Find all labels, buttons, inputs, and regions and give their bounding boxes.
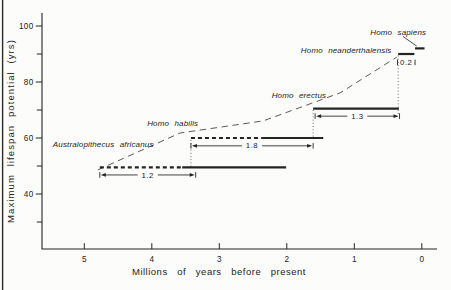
arrowhead-right bbox=[394, 114, 399, 118]
duration-label: 1.3 bbox=[351, 112, 363, 121]
lifespan-evolution-figure: 100806040543210Millions of years before … bbox=[0, 0, 451, 290]
x-tick-label: 5 bbox=[82, 255, 87, 264]
x-tick-label: 4 bbox=[150, 255, 155, 264]
x-tick-label: 3 bbox=[217, 255, 222, 264]
y-axis-title: Maximum lifespan potential (yrs) bbox=[5, 39, 16, 223]
species-label: Homo erectus bbox=[272, 91, 327, 100]
chart-svg: 100806040543210Millions of years before … bbox=[0, 0, 451, 290]
duration-label: 1.8 bbox=[246, 141, 258, 150]
arrowhead-left bbox=[192, 144, 197, 148]
y-tick-label: 80 bbox=[24, 78, 34, 87]
y-tick-label: 40 bbox=[24, 190, 34, 199]
x-tick-label: 0 bbox=[420, 255, 425, 264]
arrowhead-right bbox=[190, 173, 195, 177]
x-axis-title: Millions of years before present bbox=[132, 266, 306, 277]
species-label: Homo sapiens bbox=[370, 28, 426, 37]
x-tick-label: 1 bbox=[352, 255, 357, 264]
y-tick-label: 100 bbox=[19, 22, 34, 31]
x-tick-label: 2 bbox=[285, 255, 290, 264]
species-label: Australopithecus africanus bbox=[52, 140, 154, 149]
duration-label: 0.2 bbox=[400, 58, 412, 67]
arrowhead-left bbox=[316, 114, 321, 118]
y-tick-label: 60 bbox=[24, 134, 34, 143]
species-label: Homo habilis bbox=[147, 119, 198, 128]
duration-label: 1.2 bbox=[142, 171, 154, 180]
arrowhead-left bbox=[101, 173, 106, 177]
species-label: Homo neanderthalensis bbox=[301, 46, 392, 55]
label-pointer-line bbox=[403, 36, 417, 46]
arrowhead-right bbox=[307, 144, 312, 148]
